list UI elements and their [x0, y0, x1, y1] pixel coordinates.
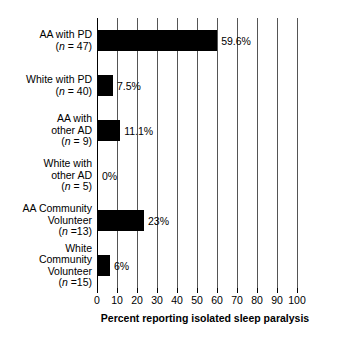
category-sample-size: (n = 47): [0, 41, 92, 53]
category-label-line: AA with PD: [0, 29, 92, 41]
x-tick-80: [257, 288, 258, 293]
x-tick-60: [217, 288, 218, 293]
x-tick-label: 90: [271, 294, 283, 306]
n-symbol: n: [59, 85, 65, 97]
n-symbol: n: [65, 135, 71, 147]
x-tick-50: [197, 288, 198, 293]
y-axis-line: [97, 18, 98, 288]
x-tick-0: [97, 288, 98, 293]
n-symbol: n: [62, 276, 68, 288]
gridline-10: [117, 18, 118, 288]
gridline-70: [237, 18, 238, 288]
category-sample-size: (n =15): [0, 277, 92, 289]
category-label: AA with PD(n = 47): [0, 29, 92, 52]
n-symbol: n: [59, 40, 65, 52]
n-symbol: n: [65, 180, 71, 192]
x-tick-label: 100: [288, 294, 306, 306]
x-tick-label: 80: [251, 294, 263, 306]
x-tick-label: 70: [231, 294, 243, 306]
category-sample-size: (n =13): [0, 226, 92, 238]
x-tick-label: 0: [94, 294, 100, 306]
bar-value-label: 23%: [148, 216, 169, 227]
category-label: WhiteCommunityVolunteer(n =15): [0, 243, 92, 289]
category-label-line: Community: [0, 254, 92, 266]
bar-value-label: 11.1%: [124, 126, 153, 137]
n-symbol: n: [62, 225, 68, 237]
bar: [98, 120, 120, 141]
category-label-line: White with PD: [0, 74, 92, 86]
x-tick-100: [297, 288, 298, 293]
x-tick-30: [157, 288, 158, 293]
gridline-30: [157, 18, 158, 288]
category-axis-labels: AA with PD(n = 47)White with PD(n = 40)A…: [0, 18, 92, 288]
gridline-20: [137, 18, 138, 288]
category-label: AA withother AD(n = 9): [0, 113, 92, 148]
plot-area: 59.6%7.5%11.1%0%23%6%: [97, 18, 317, 288]
x-tick-label: 10: [111, 294, 123, 306]
bar: [98, 255, 110, 276]
x-tick-label: 20: [131, 294, 143, 306]
gridline-40: [177, 18, 178, 288]
x-tick-label: 40: [171, 294, 183, 306]
x-tick-20: [137, 288, 138, 293]
category-label: White withother AD(n = 5): [0, 158, 92, 193]
bar-value-label: 59.6%: [221, 36, 251, 47]
bar-value-label: 0%: [102, 171, 117, 182]
x-tick-label: 50: [191, 294, 203, 306]
bar: [98, 30, 217, 51]
gridline-60: [217, 18, 218, 288]
category-sample-size: (n = 9): [0, 136, 92, 148]
gridline-100: [297, 18, 298, 288]
x-axis-tick-labels: 0102030405060708090100: [97, 294, 317, 308]
category-label: White with PD(n = 40): [0, 74, 92, 97]
gridline-80: [257, 18, 258, 288]
bar-value-label: 7.5%: [117, 81, 141, 92]
gridline-50: [197, 18, 198, 288]
bar-chart-figure: AA with PD(n = 47)White with PD(n = 40)A…: [0, 0, 347, 342]
bar: [98, 75, 113, 96]
x-tick-90: [277, 288, 278, 293]
x-tick-40: [177, 288, 178, 293]
bar-value-label: 6%: [114, 261, 129, 272]
x-tick-70: [237, 288, 238, 293]
category-label: AA CommunityVolunteer(n =13): [0, 203, 92, 238]
category-sample-size: (n = 40): [0, 86, 92, 98]
x-tick-label: 30: [151, 294, 163, 306]
x-tick-10: [117, 288, 118, 293]
gridline-90: [277, 18, 278, 288]
category-sample-size: (n = 5): [0, 181, 92, 193]
x-tick-label: 60: [211, 294, 223, 306]
bar: [98, 210, 144, 231]
x-axis-title: Percent reporting isolated sleep paralys…: [80, 312, 330, 325]
